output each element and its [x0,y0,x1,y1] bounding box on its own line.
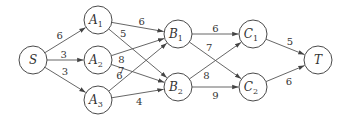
node-C1: C1 [239,20,267,48]
node-A3: A3 [84,86,112,114]
edge-weight-A2-B1: 8 [118,54,124,65]
edge-weight-S-A1: 6 [57,30,63,41]
edge-weight-S-A3: 3 [62,66,68,77]
edge-weight-A3-B2: 4 [136,96,142,107]
edge-weight-A3-B1: 7 [118,65,124,76]
edge-weight-S-A2: 3 [60,49,66,60]
node-T: T [304,46,332,74]
node-A2: A2 [84,46,112,74]
node-label: T [314,53,323,67]
edge-C1-T [266,39,305,54]
edge-weight-B1-C1: 6 [212,23,218,34]
edge-weight-B2-C1: 8 [203,70,209,81]
node-label: S [29,53,37,67]
node-S: S [19,46,47,74]
node-B1: B1 [164,20,192,48]
edge-weight-C2-T: 6 [286,76,292,87]
edge-weight-A1-B2: 5 [120,28,126,39]
edge-weight-B2-C2: 9 [212,90,218,101]
edge-weight-C1-T: 5 [287,36,293,47]
edge-arrow [266,39,305,54]
edge-weight-A1-B1: 6 [138,16,144,27]
weighted-graph-diagram: 633658674678956 SA1A2A3B1B2C1C2T [0,0,345,119]
edge-weight-B1-C2: 7 [206,42,212,53]
node-B2: B2 [164,73,192,101]
node-C2: C2 [239,73,267,101]
node-A1: A1 [84,6,112,34]
